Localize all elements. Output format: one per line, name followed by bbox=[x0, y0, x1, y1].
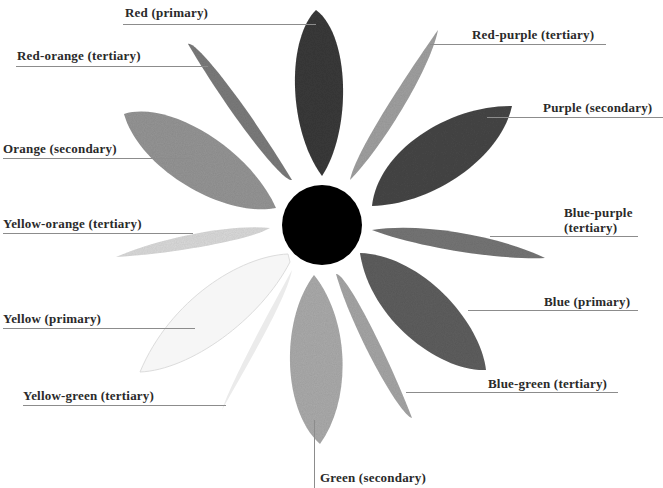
leader-purple bbox=[487, 117, 663, 118]
label-blue-green: Blue-green (tertiary) bbox=[488, 376, 607, 391]
label-green: Green (secondary) bbox=[320, 470, 426, 485]
leader-blue-purple bbox=[490, 236, 638, 237]
leader-blue bbox=[468, 310, 638, 311]
leader-yellow-orange bbox=[3, 233, 193, 234]
leader-blue-green bbox=[406, 392, 618, 393]
label-red-purple: Red-purple (tertiary) bbox=[472, 27, 594, 42]
label-purple: Purple (secondary) bbox=[543, 100, 652, 115]
label-orange: Orange (secondary) bbox=[3, 141, 117, 156]
label-red: Red (primary) bbox=[125, 5, 208, 20]
leader-red-orange bbox=[16, 66, 208, 67]
leader-orange bbox=[3, 158, 191, 159]
label-yellow: Yellow (primary) bbox=[3, 311, 101, 326]
petal-blue-purple bbox=[372, 228, 545, 258]
leader-yellow bbox=[3, 328, 195, 329]
label-yellow-orange: Yellow-orange (tertiary) bbox=[3, 216, 142, 231]
color-wheel bbox=[0, 0, 663, 488]
leader-green bbox=[314, 420, 315, 488]
label-blue-purple-line2: (tertiary) bbox=[564, 220, 644, 235]
label-blue: Blue (primary) bbox=[544, 294, 630, 309]
petal-red bbox=[295, 10, 343, 176]
petal-yellow-orange bbox=[116, 227, 270, 257]
leader-yellow-green bbox=[23, 405, 226, 406]
label-blue-purple-line1: Blue-purple bbox=[564, 205, 644, 220]
petal-green bbox=[290, 275, 343, 444]
label-blue-purple: Blue-purple (tertiary) bbox=[564, 205, 644, 235]
label-yellow-green: Yellow-green (tertiary) bbox=[23, 388, 154, 403]
petal-yellow bbox=[140, 254, 290, 372]
label-red-orange: Red-orange (tertiary) bbox=[17, 48, 141, 63]
leader-red-purple bbox=[430, 44, 606, 45]
center-circle bbox=[282, 185, 362, 265]
leader-red bbox=[123, 24, 316, 25]
